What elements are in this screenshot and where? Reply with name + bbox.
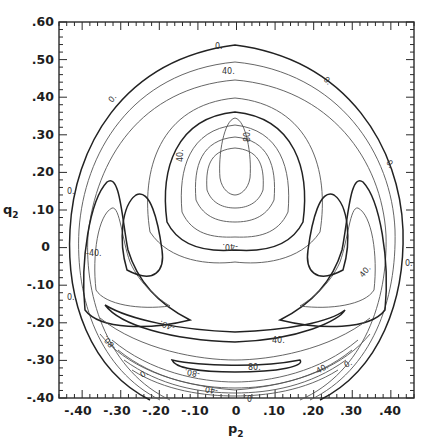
y-axis-label-text: q <box>3 202 12 217</box>
x-tick-label: -.30 <box>103 403 131 418</box>
contour-label: 40. <box>358 264 373 280</box>
y-tick-label: -.20 <box>27 315 55 330</box>
contour-lines <box>70 45 404 400</box>
contour <box>181 125 288 237</box>
contour-label: -40. <box>158 319 176 333</box>
y-tick-label: .20 <box>32 164 54 179</box>
x-tick-label: .30 <box>340 403 362 418</box>
contour-right-inner <box>307 194 347 276</box>
x-tick-label: .10 <box>263 403 285 418</box>
contour-label: 40. <box>222 67 235 76</box>
contour-label: -40. <box>222 242 238 251</box>
x-tick-label: .20 <box>302 403 324 418</box>
contour-label: -80. <box>184 367 201 379</box>
y-tick-label: -.30 <box>27 352 55 367</box>
y-tick-label: -.10 <box>27 277 55 292</box>
contour-label: 0. <box>405 259 413 268</box>
svg-text:q2: q2 <box>3 202 19 220</box>
contour-bottom <box>132 370 338 396</box>
contour-label: -40. <box>202 384 219 396</box>
contour-chart: .60 .50 .40 .30 .20 .10 0 -.10 -.20 -.30… <box>0 0 431 448</box>
x-tick-label: -.20 <box>142 403 170 418</box>
contour-label: 0. <box>244 393 252 402</box>
x-tick-label: -.10 <box>181 403 209 418</box>
contour-label: 40. <box>272 336 285 345</box>
y-tick-label: 0 <box>41 239 50 254</box>
y-axis-tick-labels: .60 .50 .40 .30 .20 .10 0 -.10 -.20 -.30… <box>27 14 55 405</box>
contour <box>195 137 274 222</box>
contour-label: 0. <box>384 159 396 170</box>
y-tick-label: .60 <box>32 14 54 29</box>
contour-label: 80. <box>243 129 252 142</box>
x-tick-label: .40 <box>379 403 401 418</box>
contour-label: 0. <box>67 187 75 196</box>
y-tick-label: .50 <box>32 52 54 67</box>
y-tick-label: .30 <box>32 127 54 142</box>
x-axis-label: p2 <box>228 421 244 439</box>
contour-bottom <box>100 318 370 360</box>
contour-label: 40. <box>176 149 185 162</box>
contour <box>148 98 323 263</box>
x-axis-tick-labels: -.40 -.30 -.20 -.10 0 .10 .20 .30 .40 <box>64 403 401 418</box>
contour-bottom <box>100 334 235 390</box>
contour-label: 0. <box>67 293 75 302</box>
contour-label: 40. <box>315 362 331 376</box>
x-tick-label: -.40 <box>64 403 92 418</box>
contour-40 <box>165 112 304 250</box>
contour-left-inner <box>122 194 162 276</box>
y-tick-label: -.40 <box>27 390 55 405</box>
y-tick-label: .40 <box>32 89 54 104</box>
contour-left-lobe <box>95 208 170 307</box>
contour-right-lobe <box>300 208 375 307</box>
x-tick-label: 0 <box>232 403 241 418</box>
contour-bottom <box>105 305 345 342</box>
contour-label: 0. <box>215 42 223 51</box>
y-axis-label: q2 <box>3 202 19 220</box>
contour-label: 0. <box>107 93 119 105</box>
y-tick-label: .10 <box>32 202 54 217</box>
contour-label: -40. <box>86 249 102 258</box>
contour-label: 80. <box>248 363 261 372</box>
contour <box>207 148 264 208</box>
